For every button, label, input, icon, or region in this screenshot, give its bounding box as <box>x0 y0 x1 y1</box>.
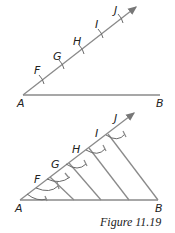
label-g: G <box>53 50 62 63</box>
label-g: G <box>51 158 60 171</box>
label-a: A <box>14 202 23 215</box>
line-h <box>69 163 101 200</box>
ray-from-a <box>20 113 134 200</box>
top-construction: A B F G H I J <box>16 4 164 110</box>
angle-arcs <box>27 131 126 201</box>
label-f: F <box>34 173 41 186</box>
label-j: J <box>112 112 117 125</box>
label-h: H <box>73 35 81 48</box>
label-b: B <box>155 202 163 215</box>
label-h: H <box>72 143 80 156</box>
label-i: I <box>95 127 98 140</box>
bottom-construction: A B F G H I J <box>14 112 163 215</box>
label-f: F <box>34 64 41 77</box>
arc-h <box>66 164 86 168</box>
figure-canvas: A B F G H I J <box>0 0 175 233</box>
label-b: B <box>156 97 164 110</box>
tick-g <box>65 173 69 178</box>
figure-caption: Figure 11.19 <box>99 215 161 229</box>
ray-from-a <box>23 7 136 95</box>
arc-f <box>36 186 58 191</box>
line-g <box>50 177 74 200</box>
parallel-lines <box>50 134 158 200</box>
line-j <box>108 134 158 200</box>
label-a: A <box>16 97 25 110</box>
label-i: I <box>95 18 98 31</box>
arc-a <box>27 194 47 200</box>
label-j: J <box>112 4 117 17</box>
arc-i <box>86 149 105 153</box>
